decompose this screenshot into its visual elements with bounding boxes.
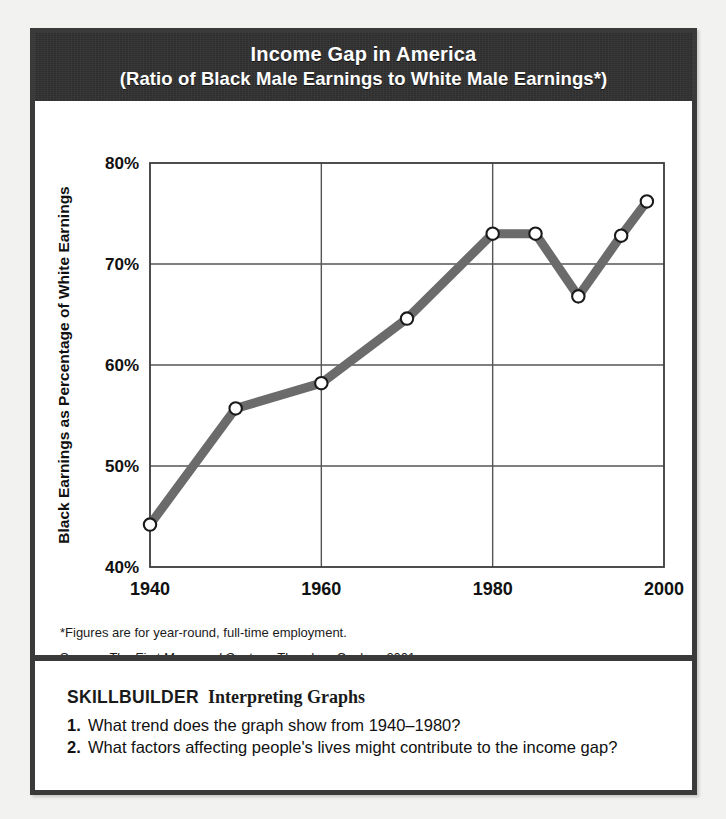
question-number: 2.	[67, 737, 88, 758]
question-text: What trend does the graph show from 1940…	[88, 715, 666, 736]
y-axis-tick-label: 70%	[105, 255, 139, 274]
skillbuilder-question-list: 1.What trend does the graph show from 19…	[67, 715, 666, 758]
x-axis-tick-label: 1960	[301, 579, 341, 599]
skillbuilder-question: 1.What trend does the graph show from 19…	[67, 715, 666, 736]
data-point-marker[interactable]	[486, 228, 498, 240]
y-axis-tick-label: 80%	[105, 154, 139, 173]
skillbuilder-question: 2.What factors affecting people's lives …	[67, 737, 666, 758]
skillbuilder-label: SKILLBUILDER	[67, 687, 199, 707]
question-text: What factors affecting people's lives mi…	[88, 737, 666, 758]
x-axis-tick-label: 1940	[130, 579, 170, 599]
skillbuilder-subtitle: Interpreting Graphs	[208, 687, 365, 707]
skillbuilder-section: SKILLBUILDERInterpreting Graphs 1.What t…	[35, 661, 692, 790]
x-axis-tick-label: 1980	[473, 579, 513, 599]
data-point-marker[interactable]	[641, 195, 653, 207]
y-axis-tick-label: 40%	[105, 558, 139, 577]
data-point-marker[interactable]	[229, 402, 241, 414]
page-title: Income Gap in America	[251, 43, 477, 66]
chart-region: 40%50%60%70%80%1940196019802000Black Ear…	[35, 101, 692, 657]
x-axis-tick-label: 2000	[644, 579, 684, 599]
question-number: 1.	[67, 715, 88, 736]
y-axis-title: Black Earnings as Percentage of White Ea…	[55, 186, 72, 543]
page-subtitle: (Ratio of Black Male Earnings to White M…	[120, 68, 608, 90]
data-point-marker[interactable]	[529, 228, 541, 240]
y-axis-tick-label: 60%	[105, 356, 139, 375]
data-point-marker[interactable]	[144, 518, 156, 530]
data-point-marker[interactable]	[315, 377, 327, 389]
chart-footnote: *Figures are for year-round, full-time e…	[60, 625, 347, 640]
data-point-marker[interactable]	[401, 312, 413, 324]
y-axis-tick-label: 50%	[105, 457, 139, 476]
page-background: Income Gap in America (Ratio of Black Ma…	[0, 0, 726, 819]
data-point-marker[interactable]	[615, 230, 627, 242]
figure-title-band: Income Gap in America (Ratio of Black Ma…	[35, 33, 692, 101]
skillbuilder-heading: SKILLBUILDERInterpreting Graphs	[67, 687, 666, 708]
line-chart: 40%50%60%70%80%1940196019802000Black Ear…	[35, 101, 692, 657]
figure-card: Income Gap in America (Ratio of Black Ma…	[30, 28, 697, 795]
data-point-marker[interactable]	[572, 290, 584, 302]
